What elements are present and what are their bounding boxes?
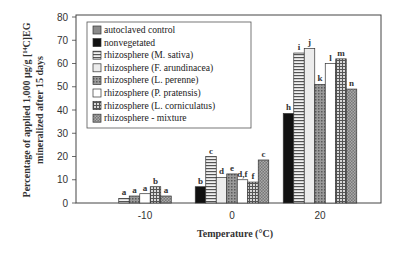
x-tick-label: 0	[229, 210, 235, 221]
legend-swatch	[93, 102, 101, 110]
significance-label: h	[286, 102, 291, 112]
bar	[336, 59, 347, 203]
legend-item: rhizosphere (L. corniculatus)	[104, 100, 215, 112]
bar	[216, 177, 227, 203]
significance-label: b	[153, 176, 158, 186]
significance-label: b	[198, 176, 203, 186]
bar-chart: 01020304050607080 -10020 aaababcded,ffch…	[0, 0, 402, 257]
legend-item: rhizosphere (L. perenne)	[104, 74, 199, 86]
significance-label: l	[329, 53, 332, 63]
bar	[294, 53, 305, 203]
x-axis: -10020	[138, 210, 326, 221]
bar	[325, 64, 336, 204]
y-tick-label: 20	[57, 151, 69, 162]
legend-swatch	[93, 51, 101, 59]
significance-label: d	[219, 166, 224, 176]
bar	[304, 48, 315, 203]
legend-swatch	[93, 64, 101, 72]
legend-item: rhizosphere (P. pratensis)	[104, 87, 201, 99]
bar	[227, 174, 238, 203]
y-tick-label: 30	[57, 128, 69, 139]
x-axis-label: Temperature (°C)	[197, 228, 273, 240]
significance-label: a	[132, 185, 137, 195]
bar	[346, 89, 357, 203]
significance-label: i	[298, 42, 301, 52]
bar	[161, 196, 172, 203]
legend-swatch	[93, 89, 101, 97]
y-tick-label: 50	[57, 81, 69, 92]
bar	[237, 180, 248, 203]
y-tick-label: 40	[57, 105, 69, 116]
significance-label: c	[209, 146, 213, 156]
x-tick-label: 20	[314, 210, 326, 221]
x-tick-label: -10	[138, 210, 153, 221]
legend-item: autoclaved control	[104, 24, 175, 35]
significance-label: a	[164, 185, 169, 195]
significance-label: c	[262, 149, 266, 159]
legend-swatch	[93, 114, 101, 122]
significance-label: a	[122, 187, 127, 197]
legend: autoclaved controlnonvegetatedrhizospher…	[87, 22, 251, 128]
y-tick-label: 80	[57, 12, 69, 23]
significance-label: e	[230, 163, 234, 173]
bar	[206, 157, 217, 204]
legend-item: rhizosphere - mixture	[104, 112, 187, 123]
bar	[248, 182, 259, 203]
bar	[150, 187, 161, 203]
significance-label: d,f	[237, 169, 248, 179]
y-tick-label: 70	[57, 35, 69, 46]
legend-swatch	[93, 26, 101, 34]
bar	[140, 194, 151, 203]
bar	[258, 160, 269, 203]
significance-label: a	[143, 183, 148, 193]
y-tick-label: 60	[57, 58, 69, 69]
y-axis-label-line1: Percentage of applied 1,000 µg/g [¹⁴C]EG	[21, 22, 32, 197]
bar	[129, 196, 140, 203]
legend-item: rhizosphere (M. sativa)	[104, 49, 193, 61]
significance-label: j	[307, 37, 311, 47]
bar	[315, 84, 326, 203]
significance-label: m	[337, 48, 345, 58]
y-axis: 01020304050607080	[57, 12, 76, 209]
legend-item: nonvegetated	[104, 37, 155, 48]
bar	[195, 187, 206, 203]
legend-item: rhizosphere (F. arundinacea)	[104, 62, 213, 74]
bar	[119, 198, 130, 203]
y-tick-label: 10	[57, 174, 69, 185]
significance-label: k	[317, 73, 322, 83]
y-tick-label: 0	[62, 198, 68, 209]
bar	[283, 113, 294, 203]
significance-label: f	[252, 171, 256, 181]
significance-label: n	[349, 78, 354, 88]
legend-swatch	[93, 39, 101, 47]
legend-swatch	[93, 76, 101, 84]
y-axis-label-line2: mineralized after 15 days	[34, 56, 45, 164]
